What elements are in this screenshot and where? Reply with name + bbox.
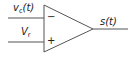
vr-main: V <box>21 26 28 37</box>
inverting-input-label: vc(t) <box>13 3 34 15</box>
output-label: s(t) <box>100 17 117 27</box>
plus-sign: + <box>47 36 55 46</box>
non-inverting-input-label: Vr <box>21 27 31 39</box>
vr-subscript: r <box>28 31 31 39</box>
comparator-diagram: − + vc(t) Vr s(t) <box>0 0 136 57</box>
minus-sign: − <box>47 12 55 22</box>
vc-argument: (t) <box>23 2 35 13</box>
